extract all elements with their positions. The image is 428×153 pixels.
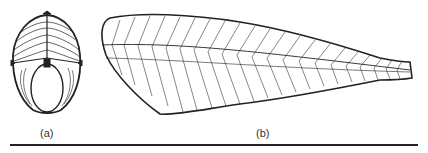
lateral-view-diagram xyxy=(102,15,412,115)
panel-label-a: (a) xyxy=(40,127,53,139)
figure-canvas xyxy=(0,0,428,153)
panel-label-b: (b) xyxy=(256,127,269,139)
cross-section-diagram xyxy=(11,11,82,113)
bottom-rule xyxy=(10,144,418,146)
